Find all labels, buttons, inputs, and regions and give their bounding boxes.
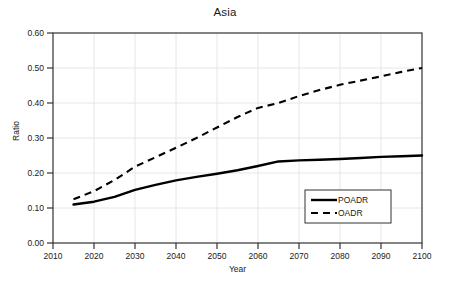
y-tick-0-30: 0.30 — [10, 133, 44, 143]
x-tick-2050: 2050 — [197, 251, 237, 261]
y-tick-0-00: 0.00 — [10, 238, 44, 248]
x-tick-2060: 2060 — [238, 251, 278, 261]
y-tick-0-60: 0.60 — [10, 28, 44, 38]
y-axis-ticks — [47, 33, 53, 243]
chart-container: Asia Ratio Year — [0, 0, 450, 285]
y-tick-0-40: 0.40 — [10, 98, 44, 108]
x-tick-2100: 2100 — [402, 251, 442, 261]
x-tick-2030: 2030 — [115, 251, 155, 261]
x-tick-2040: 2040 — [156, 251, 196, 261]
x-tick-2020: 2020 — [74, 251, 114, 261]
x-axis-ticks — [53, 243, 422, 249]
legend-label-poadr: POADR — [338, 195, 368, 205]
x-tick-2010: 2010 — [33, 251, 73, 261]
plot-area — [0, 0, 450, 285]
y-tick-0-10: 0.10 — [10, 203, 44, 213]
data-line-oadr — [74, 68, 423, 199]
x-tick-2090: 2090 — [361, 251, 401, 261]
y-tick-0-20: 0.20 — [10, 168, 44, 178]
x-tick-2080: 2080 — [320, 251, 360, 261]
x-tick-2070: 2070 — [279, 251, 319, 261]
legend-label-oadr: OADR — [338, 208, 363, 218]
y-tick-0-50: 0.50 — [10, 63, 44, 73]
